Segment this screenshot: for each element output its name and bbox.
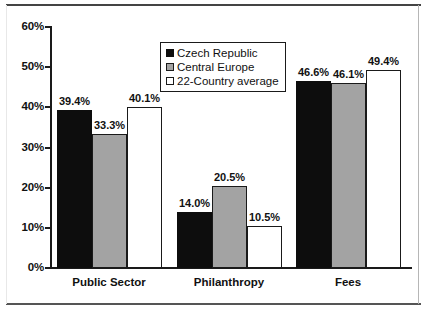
y-tick-mark — [45, 227, 51, 229]
legend-swatch-icon-central-europe — [166, 63, 174, 71]
y-tick-mark — [45, 187, 51, 189]
frame-top-rule — [6, 4, 421, 6]
frame-right-rule — [418, 5, 419, 304]
legend-item-czech-republic: Czech Republic — [166, 46, 281, 60]
bar — [92, 134, 127, 268]
y-tick-label: 50% — [0, 61, 44, 72]
bar-value-label: 49.4% — [358, 56, 409, 67]
bar — [212, 186, 247, 268]
chart-figure: 0%10%20%30%40%50%60% 39.4%33.3%40.1%14.0… — [0, 0, 427, 314]
y-tick-label: 0% — [0, 262, 44, 273]
bar — [127, 107, 162, 268]
legend-item-22-country-average: 22-Country average — [166, 74, 281, 88]
y-tick-mark — [45, 147, 51, 149]
bar — [331, 83, 366, 268]
bar-value-label: 39.4% — [49, 96, 100, 107]
y-tick-label: 30% — [0, 142, 44, 153]
bar — [57, 110, 92, 268]
legend-swatch-icon-22-country-average — [166, 77, 174, 85]
x-axis-category-label: Fees — [276, 276, 420, 288]
y-tick-mark — [45, 66, 51, 68]
chart-legend: Czech Republic Central Europe 22-Country… — [160, 42, 286, 92]
legend-swatch-icon-czech-republic — [166, 49, 174, 57]
frame-bottom-rule — [6, 303, 421, 305]
bar-value-label: 20.5% — [204, 172, 255, 183]
bar — [177, 212, 212, 268]
y-tick-mark — [45, 26, 51, 28]
bar — [296, 81, 331, 268]
legend-label-22-country-average: 22-Country average — [177, 75, 279, 87]
legend-label-czech-republic: Czech Republic — [177, 47, 258, 59]
y-tick-label: 20% — [0, 182, 44, 193]
bar — [247, 226, 282, 268]
y-tick-mark — [45, 267, 51, 269]
bar-value-label: 40.1% — [119, 93, 170, 104]
bar — [366, 70, 401, 268]
legend-label-central-europe: Central Europe — [177, 61, 254, 73]
bar-value-label: 10.5% — [239, 212, 290, 223]
frame-left-rule — [6, 5, 7, 304]
legend-item-central-europe: Central Europe — [166, 60, 281, 74]
y-tick-label: 10% — [0, 222, 44, 233]
y-tick-label: 40% — [0, 101, 44, 112]
y-tick-label: 60% — [0, 21, 44, 32]
